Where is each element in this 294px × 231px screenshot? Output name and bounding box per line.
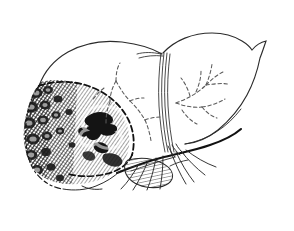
liver-illustration bbox=[0, 0, 294, 231]
figure-container: Liver with nodular tumor infiltration of… bbox=[0, 0, 294, 231]
